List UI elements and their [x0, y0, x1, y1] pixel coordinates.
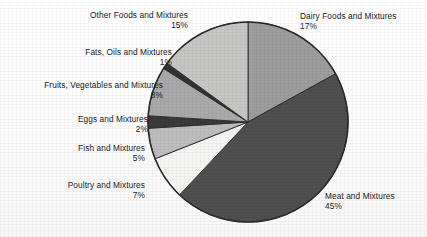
- slice-label-fruits-vegetables: Fruits, Vegetables and Mixtures 8%: [2, 80, 163, 101]
- slice-label-fats-oils: Fats, Oils and Mixtures 1%: [8, 47, 172, 68]
- pie-graphic: [147, 21, 349, 223]
- slice-label-fats-oils-pct: 1%: [8, 57, 172, 67]
- slice-label-poultry: Poultry and Mixtures 7%: [8, 180, 145, 201]
- slice-label-poultry-name: Poultry and Mixtures: [68, 180, 145, 190]
- slice-label-dairy-pct: 17%: [300, 21, 424, 31]
- slice-label-fruits-vegetables-pct: 8%: [2, 90, 163, 100]
- slice-label-meat: Meat and Mixtures 45%: [325, 191, 425, 212]
- slice-label-fish-name: Fish and Mixtures: [78, 143, 145, 153]
- slice-label-other-foods-name: Other Foods and Mixtures: [90, 10, 188, 20]
- slice-label-fats-oils-name: Fats, Oils and Mixtures: [85, 47, 172, 57]
- slice-label-dairy-name: Dairy Foods and Mixtures: [300, 11, 397, 21]
- pie-chart: Other Foods and Mixtures 15% Fats, Oils …: [0, 0, 427, 237]
- slice-label-poultry-pct: 7%: [8, 190, 145, 200]
- pie-slices: [148, 22, 348, 222]
- slice-label-other-foods-pct: 15%: [8, 20, 188, 30]
- slice-label-eggs-pct: 2%: [8, 124, 148, 134]
- slice-label-dairy: Dairy Foods and Mixtures 17%: [300, 11, 424, 32]
- slice-label-meat-pct: 45%: [325, 201, 425, 211]
- slice-label-fish-pct: 5%: [8, 153, 145, 163]
- slice-label-other-foods: Other Foods and Mixtures 15%: [8, 10, 188, 31]
- slice-label-eggs: Eggs and Mixtures 2%: [8, 114, 148, 135]
- slice-label-fish: Fish and Mixtures 5%: [8, 143, 145, 164]
- slice-label-fruits-vegetables-name: Fruits, Vegetables and Mixtures: [44, 80, 163, 90]
- chart-page: Other Foods and Mixtures 15% Fats, Oils …: [0, 0, 427, 237]
- slice-label-meat-name: Meat and Mixtures: [325, 191, 395, 201]
- slice-label-eggs-name: Eggs and Mixtures: [78, 114, 148, 124]
